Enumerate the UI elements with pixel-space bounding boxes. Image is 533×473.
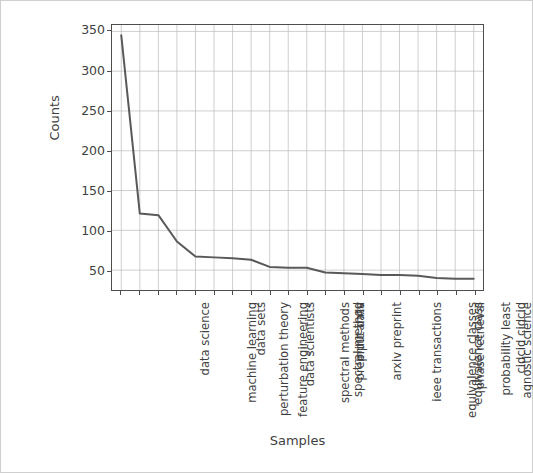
x-tick-mark <box>437 291 438 295</box>
y-tick-mark <box>107 231 111 232</box>
x-tick-mark <box>344 291 345 295</box>
x-tick-mark <box>232 291 233 295</box>
y-tick-mark <box>107 191 111 192</box>
y-tick-label: 350 <box>61 22 105 37</box>
x-tick-mark <box>176 291 177 295</box>
x-tick-mark <box>139 291 140 295</box>
y-tick-label: 50 <box>61 263 105 278</box>
y-tick-label: 150 <box>61 183 105 198</box>
data-series-line <box>112 25 483 290</box>
x-axis-tick-labels: data sciencemachine learningperturbation… <box>111 298 484 428</box>
x-tick-mark <box>214 291 215 295</box>
x-tick-label: data sets <box>253 302 267 356</box>
x-tick-mark <box>363 291 364 295</box>
y-tick-label: 250 <box>61 103 105 118</box>
x-tick-label: arxiv preprint <box>390 302 404 380</box>
x-tick-mark <box>400 291 401 295</box>
y-tick-label: 300 <box>61 63 105 78</box>
x-tick-label: ieee transactions <box>430 302 444 402</box>
x-tick-mark <box>251 291 252 295</box>
x-tick-mark <box>456 291 457 295</box>
x-tick-mark <box>195 291 196 295</box>
x-tick-label: data science <box>199 302 213 375</box>
x-tick-mark <box>325 291 326 295</box>
x-tick-label: cidcid cidcid <box>514 302 528 374</box>
x-tick-label: phase retrieval <box>474 302 488 389</box>
plot-area <box>111 24 484 291</box>
x-tick-label: perturbation theory <box>277 302 291 416</box>
x-tick-mark <box>288 291 289 295</box>
y-tick-mark <box>107 30 111 31</box>
y-axis-title: Counts <box>47 123 62 141</box>
y-tick-label: 200 <box>61 143 105 158</box>
y-tick-mark <box>107 111 111 112</box>
x-tick-label: data scientists <box>303 302 317 386</box>
figure-canvas: Counts 50100150200250300350 data science… <box>0 0 533 473</box>
x-tick-mark <box>419 291 420 295</box>
x-tick-mark <box>307 291 308 295</box>
y-tick-mark <box>107 151 111 152</box>
x-tick-mark <box>158 291 159 295</box>
x-tick-mark <box>270 291 271 295</box>
x-tick-label: input data <box>353 302 367 362</box>
x-tick-mark <box>381 291 382 295</box>
x-tick-mark <box>475 291 476 295</box>
y-tick-label: 100 <box>61 223 105 238</box>
x-axis-title: Samples <box>111 433 484 448</box>
y-tick-mark <box>107 71 111 72</box>
x-tick-label: probability least <box>499 302 513 396</box>
x-tick-mark <box>120 291 121 295</box>
y-tick-mark <box>107 271 111 272</box>
